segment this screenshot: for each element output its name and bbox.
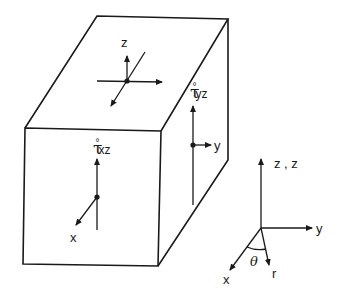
top-origin-dot	[124, 78, 129, 83]
top-z-label: z	[121, 36, 128, 49]
right-y-label: y	[214, 139, 221, 152]
theta-arc	[247, 247, 266, 250]
theta-label: θ	[250, 255, 258, 268]
ref-y-label: y	[316, 222, 323, 235]
ref-r-arrow	[261, 228, 269, 265]
right-origin-dot	[190, 142, 195, 147]
tau-yz-label: τ°yz	[190, 84, 207, 101]
block-drawing	[0, 0, 340, 299]
tau-subscript: yz	[195, 87, 207, 101]
front-x-label: x	[70, 231, 77, 244]
front-x-arrow	[76, 197, 97, 225]
tau-xz-label: τ°xz	[93, 140, 110, 157]
diagram-canvas: z τ°yz y τ°xz x z , z y x r θ	[0, 0, 340, 299]
ref-z-label: z , z	[274, 157, 298, 170]
ref-x-label: x	[223, 273, 230, 286]
tau-subscript: xz	[98, 143, 110, 157]
degree-mark: °	[192, 81, 196, 92]
front-origin-dot	[94, 194, 99, 199]
degree-mark: °	[95, 137, 99, 148]
ref-r-label: r	[272, 267, 276, 280]
block-outline	[23, 16, 228, 266]
